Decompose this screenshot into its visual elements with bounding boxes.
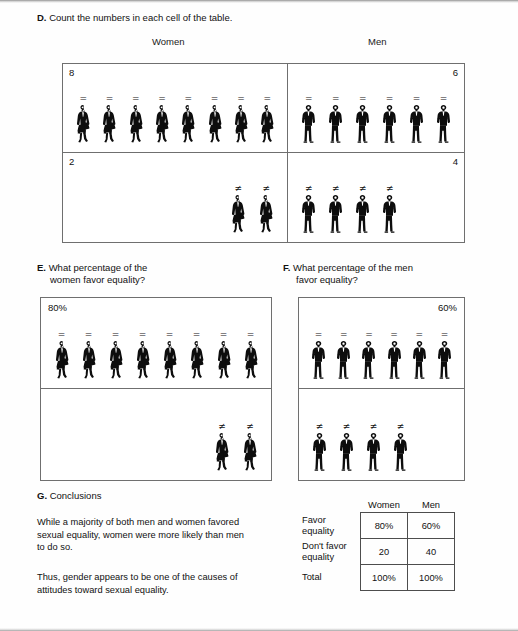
pictogram-man: =: [296, 94, 321, 148]
pictogram-man: =: [332, 330, 355, 384]
woman-silhouette-icon: [256, 104, 278, 148]
woman-silhouette-icon: [204, 104, 226, 148]
woman-silhouette-icon: [213, 340, 235, 384]
pictogram-man: ≠: [388, 422, 413, 476]
pictogram-woman: ≠: [225, 184, 251, 238]
not-equal-symbol: ≠: [235, 184, 243, 193]
cell-count-men-dont-favor: 4: [453, 156, 458, 167]
pictogram-woman: =: [157, 330, 182, 384]
man-silhouette-icon: [384, 340, 405, 384]
summary-header-row: Women Men: [302, 497, 455, 513]
pictogram-man: =: [323, 94, 348, 148]
pictogram-woman: =: [229, 94, 253, 148]
summary-cell-total-men: 100%: [408, 565, 455, 591]
column-caption-women: Women: [152, 36, 185, 47]
box-e-percent-label: 80%: [48, 302, 67, 313]
table-d-row-favor: 8 ======== 6 ======: [63, 64, 464, 153]
not-equal-symbol: ≠: [370, 422, 378, 431]
man-silhouette-icon: [409, 340, 430, 384]
summary-row-favor: Favor equality 80% 60%: [302, 513, 455, 539]
man-silhouette-icon: [363, 432, 384, 476]
document-page: D. Count the numbers in each cell of the…: [0, 0, 518, 631]
equality-symbol: =: [440, 94, 448, 103]
man-silhouette-icon: [390, 432, 411, 476]
woman-silhouette-icon: [78, 340, 100, 384]
box-f-top-half: 60% ======: [299, 298, 464, 389]
table-d: 8 ======== 6 ====== 2 ≠≠ 4 ≠≠≠≠: [62, 63, 465, 243]
scan-edge-top: [0, 0, 518, 3]
not-equal-symbol: ≠: [343, 422, 351, 431]
man-silhouette-icon: [308, 340, 329, 384]
box-f-percent-label: 60%: [438, 302, 457, 313]
figure-row-men-favor: ======: [288, 94, 464, 148]
woman-silhouette-icon: [72, 104, 94, 148]
equality-symbol: =: [305, 94, 313, 103]
section-d-heading: D. Count the numbers in each cell of the…: [37, 12, 232, 24]
equality-symbol: =: [132, 94, 140, 103]
summary-rowlabel-dont-favor-line2: equality: [302, 552, 334, 562]
figure-row-f-bottom: ≠≠≠≠: [299, 422, 464, 476]
conclusion-paragraph-1: While a majority of both men and women f…: [37, 516, 252, 554]
figure-row-women-favor: ========: [63, 94, 287, 148]
not-equal-symbol: ≠: [386, 184, 394, 193]
equality-symbol: =: [185, 94, 193, 103]
not-equal-symbol: ≠: [316, 422, 324, 431]
not-equal-symbol: ≠: [359, 184, 367, 193]
pictogram-man: ≠: [307, 422, 332, 476]
woman-silhouette-icon: [227, 194, 249, 238]
woman-silhouette-icon: [98, 104, 120, 148]
summary-rowlabel-dont-favor-line1: Don't favor: [302, 541, 347, 551]
summary-header-women: Women: [361, 497, 408, 513]
man-silhouette-icon: [298, 194, 319, 238]
cell-women-dont-favor: 2 ≠≠: [63, 153, 288, 242]
section-e-title-line1: What percentage of the: [49, 262, 148, 273]
summary-rowlabel-total: Total: [302, 565, 361, 591]
woman-silhouette-icon: [211, 432, 233, 476]
figure-row-e-bottom: ≠≠: [41, 422, 271, 476]
pictogram-man: =: [307, 330, 330, 384]
section-f-label: F.: [283, 262, 290, 273]
equality-symbol: =: [139, 330, 147, 339]
pictogram-man: ≠: [350, 184, 375, 238]
man-silhouette-icon: [379, 194, 400, 238]
pictogram-woman: =: [255, 94, 279, 148]
equality-symbol: =: [390, 330, 398, 339]
pictogram-woman: =: [130, 330, 155, 384]
section-g-label: G.: [37, 490, 47, 501]
summary-row-total: Total 100% 100%: [302, 565, 455, 591]
section-f-title-line2: favor equality?: [296, 274, 483, 286]
pictogram-man: =: [357, 330, 380, 384]
equality-symbol: =: [413, 94, 421, 103]
pictogram-man: ≠: [361, 422, 386, 476]
box-e-top-half: 80% ========: [41, 298, 271, 389]
summary-rowlabel-favor: Favor equality: [302, 513, 361, 539]
section-e-title-line2: women favor equality?: [50, 274, 217, 286]
pictogram-woman: =: [238, 330, 263, 384]
equality-symbol: =: [416, 330, 424, 339]
section-d-label: D.: [37, 12, 47, 23]
box-f-men-percentage: 60% ====== ≠≠≠≠: [298, 297, 465, 481]
summary-cell-dont-favor-men: 40: [408, 539, 455, 565]
summary-rowlabel-dont-favor: Don't favor equality: [302, 539, 361, 565]
cell-count-women-favor: 8: [69, 67, 74, 78]
pictogram-man: =: [404, 94, 429, 148]
woman-silhouette-icon: [105, 340, 127, 384]
man-silhouette-icon: [434, 340, 455, 384]
pictogram-man: =: [408, 330, 431, 384]
man-silhouette-icon: [325, 194, 346, 238]
figure-row-women-dont-favor: ≠≠: [63, 184, 287, 238]
woman-silhouette-icon: [230, 104, 252, 148]
pictogram-woman: ≠: [237, 422, 263, 476]
equality-symbol: =: [315, 330, 323, 339]
equality-symbol: =: [359, 94, 367, 103]
summary-header-men: Men: [408, 497, 455, 513]
man-silhouette-icon: [379, 104, 400, 148]
pictogram-woman: =: [176, 94, 200, 148]
equality-symbol: =: [340, 330, 348, 339]
man-silhouette-icon: [358, 340, 379, 384]
box-e-women-percentage: 80% ======== ≠≠: [40, 297, 272, 481]
equality-symbol: =: [193, 330, 201, 339]
man-silhouette-icon: [298, 104, 319, 148]
cell-men-dont-favor: 4 ≠≠≠≠: [288, 153, 464, 242]
equality-symbol: =: [263, 94, 271, 103]
